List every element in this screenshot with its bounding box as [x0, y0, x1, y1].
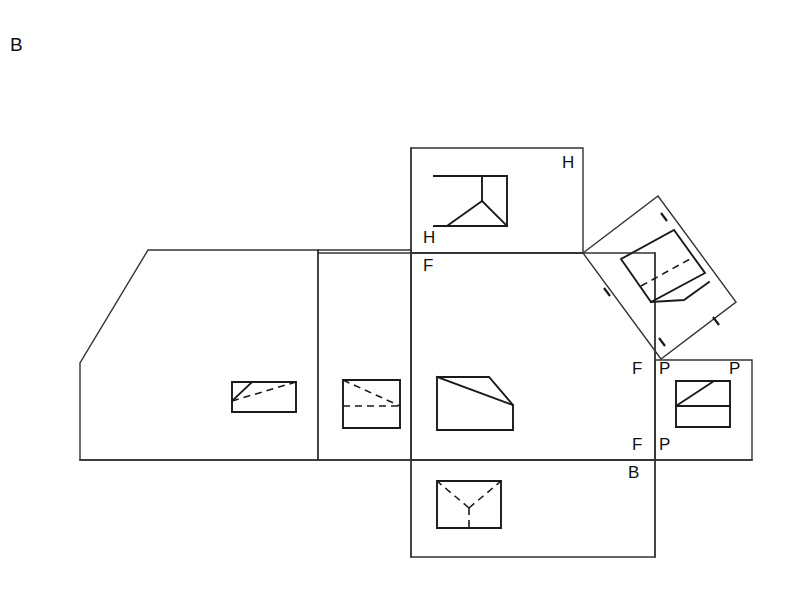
rear-view-outline: [232, 382, 296, 412]
orthographic-unfolding-diagram: B H H F F P P F P B: [0, 0, 795, 598]
bottom-panel: [411, 460, 655, 557]
top-view-diagonal-left: [447, 201, 482, 226]
tick-mark-bottom-icon: [659, 338, 665, 346]
bottom-view-hidden-diagonal-right: [469, 481, 501, 508]
rear-view-figure: [232, 382, 296, 412]
label-profile-top-right: P: [729, 359, 740, 378]
bottom-view-hidden-diagonal-left: [437, 481, 469, 508]
label-bottom-plane: B: [628, 463, 639, 482]
top-view-diagonal-right: [482, 201, 507, 226]
left-rear-panel: [80, 250, 318, 460]
frontal-center-panel: [411, 253, 655, 460]
auxiliary-view-lower-edges: [651, 282, 709, 302]
profile-view-diagonal: [676, 381, 714, 406]
label-profile-bottom-left: P: [659, 435, 670, 454]
label-frontal-below-fold: F: [423, 256, 433, 275]
label-horizontal-top-right: H: [562, 153, 574, 172]
label-frontal-left-of-profile-top: F: [632, 359, 642, 378]
top-view-outline: [434, 176, 507, 226]
figure-canvas: B H H F F P P F P B: [0, 0, 795, 598]
side-view-figure: [343, 380, 400, 428]
side-view-hidden-diagonal: [343, 380, 400, 406]
panel-outlines: [80, 148, 752, 557]
label-frontal-left-of-profile-bottom: F: [632, 435, 642, 454]
top-view-figure: [434, 176, 507, 226]
label-profile-top-left: P: [659, 359, 670, 378]
tick-mark-right-icon: [713, 317, 719, 325]
horizontal-top-panel: [411, 148, 583, 253]
auxiliary-view-outline: [621, 230, 705, 302]
bottom-view-figure: [437, 481, 501, 528]
tick-mark-top-icon: [661, 213, 667, 221]
rear-view-chamfer-edge: [232, 382, 252, 401]
rotated-auxiliary-panel: [583, 196, 736, 359]
profile-view-figure: [676, 381, 730, 427]
figure-id-label: B: [10, 34, 23, 55]
auxiliary-view-figure: [621, 230, 709, 302]
front-view-figure: [437, 377, 513, 430]
auxiliary-view-hidden-diagonal: [641, 259, 690, 286]
fold-lines: [80, 148, 752, 557]
auxiliary-panel-tick-marks: [604, 213, 719, 346]
label-horizontal-bottom-left: H: [423, 228, 435, 247]
side-view-outline: [343, 380, 400, 428]
front-view-outline: [437, 377, 513, 430]
